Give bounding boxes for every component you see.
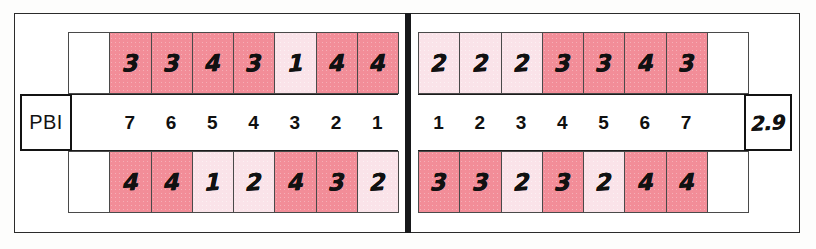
left-top-cell[interactable]: 4 xyxy=(192,32,234,94)
left-bottom-end-cap xyxy=(68,151,110,213)
pbi-label-box: PBI xyxy=(20,94,72,151)
left-bottom-cell[interactable]: 2 xyxy=(233,151,275,213)
left-top-mark: 3 xyxy=(246,51,262,75)
right-top-cell[interactable]: 2 xyxy=(501,32,543,94)
right-top-cell[interactable]: 3 xyxy=(542,32,584,94)
right-bottom-cell[interactable]: 3 xyxy=(418,151,460,213)
right-scale-cell[interactable]: 6 xyxy=(624,95,665,150)
left-scale-cell[interactable]: 4 xyxy=(233,95,274,150)
left-top-mark: 1 xyxy=(287,51,303,75)
left-scale-number: 5 xyxy=(207,112,218,134)
right-scale-number: 1 xyxy=(433,112,444,134)
right-scale-cell[interactable]: 7 xyxy=(666,95,707,150)
left-top-mark: 3 xyxy=(164,51,180,75)
left-top-mark: 4 xyxy=(329,51,345,75)
right-bottom-mark: 2 xyxy=(514,170,530,194)
right-scale-number: 4 xyxy=(557,112,568,134)
right-top-mark: 3 xyxy=(679,51,695,75)
right-top-rating-row: 2223343 xyxy=(418,32,748,94)
right-scale-number: 5 xyxy=(598,112,609,134)
right-bottom-mark: 2 xyxy=(596,170,612,194)
right-bottom-cell[interactable]: 3 xyxy=(459,151,501,213)
left-scale-cell[interactable]: 6 xyxy=(151,95,192,150)
right-scale-number-row: 1234567 xyxy=(418,94,748,151)
right-scale-number: 2 xyxy=(475,112,486,134)
pbi-label-text: PBI xyxy=(29,111,62,134)
left-scale-cell[interactable]: 5 xyxy=(192,95,233,150)
right-top-mark: 3 xyxy=(596,51,612,75)
left-top-mark: 3 xyxy=(122,51,138,75)
right-scale-number: 3 xyxy=(516,112,527,134)
pbi-score-box: 2.9 xyxy=(744,94,792,151)
right-scale-cell[interactable]: 4 xyxy=(542,95,583,150)
left-scale-cell[interactable]: 2 xyxy=(316,95,357,150)
left-top-cell[interactable]: 3 xyxy=(151,32,193,94)
left-bottom-mark: 2 xyxy=(246,170,262,194)
left-bottom-cell[interactable]: 3 xyxy=(316,151,358,213)
left-top-cell[interactable]: 4 xyxy=(357,32,399,94)
left-scale-number-row: 7654321 xyxy=(68,94,398,151)
right-top-cell[interactable]: 3 xyxy=(583,32,625,94)
right-bottom-rating-row: 3323244 xyxy=(418,151,748,213)
left-top-cell[interactable]: 4 xyxy=(316,32,358,94)
right-top-mark: 4 xyxy=(637,51,653,75)
right-bottom-cell[interactable]: 3 xyxy=(542,151,584,213)
left-scale-cell[interactable]: 7 xyxy=(109,95,150,150)
right-scale-cell[interactable]: 5 xyxy=(583,95,624,150)
left-scale-cell[interactable]: 1 xyxy=(357,95,398,150)
right-scale-pad xyxy=(707,95,748,150)
centre-divider xyxy=(405,13,411,233)
left-top-cell[interactable]: 3 xyxy=(109,32,151,94)
left-bottom-cell[interactable]: 4 xyxy=(109,151,151,213)
left-top-end-cap xyxy=(68,32,110,94)
left-scale-number: 3 xyxy=(290,112,301,134)
right-top-cell[interactable]: 2 xyxy=(418,32,460,94)
left-top-rating-row: 3343144 xyxy=(68,32,398,94)
scale-block-left: 3343144 7654321 4412432 xyxy=(68,32,398,217)
right-bottom-cell[interactable]: 4 xyxy=(666,151,708,213)
right-top-mark: 3 xyxy=(555,51,571,75)
right-scale-cell[interactable]: 3 xyxy=(501,95,542,150)
right-top-mark: 2 xyxy=(514,51,530,75)
right-top-cell[interactable]: 2 xyxy=(459,32,501,94)
right-bottom-mark: 3 xyxy=(472,170,488,194)
right-scale-cell[interactable]: 1 xyxy=(418,95,459,150)
left-scale-number: 6 xyxy=(166,112,177,134)
left-bottom-cell[interactable]: 4 xyxy=(151,151,193,213)
left-top-mark: 4 xyxy=(205,51,221,75)
right-bottom-mark: 3 xyxy=(555,170,571,194)
left-scale-number: 2 xyxy=(331,112,342,134)
left-bottom-cell[interactable]: 1 xyxy=(192,151,234,213)
right-top-cell[interactable]: 4 xyxy=(624,32,666,94)
left-bottom-rating-row: 4412432 xyxy=(68,151,398,213)
left-bottom-mark: 3 xyxy=(329,170,345,194)
right-bottom-mark: 3 xyxy=(431,170,447,194)
right-scale-cell[interactable]: 2 xyxy=(459,95,500,150)
left-bottom-mark: 1 xyxy=(205,170,221,194)
right-bottom-cell[interactable]: 2 xyxy=(501,151,543,213)
left-top-cell[interactable]: 1 xyxy=(274,32,316,94)
right-scale-number: 6 xyxy=(640,112,651,134)
left-bottom-mark: 2 xyxy=(370,170,386,194)
right-scale-number: 7 xyxy=(681,112,692,134)
right-bottom-end-cap xyxy=(707,151,749,213)
left-scale-number: 1 xyxy=(372,112,383,134)
right-top-mark: 2 xyxy=(431,51,447,75)
left-scale-number: 7 xyxy=(125,112,136,134)
right-bottom-mark: 4 xyxy=(679,170,695,194)
left-scale-cell[interactable]: 3 xyxy=(274,95,315,150)
right-top-end-cap xyxy=(707,32,749,94)
left-bottom-mark: 4 xyxy=(164,170,180,194)
left-bottom-cell[interactable]: 2 xyxy=(357,151,399,213)
pbi-score-value: 2.9 xyxy=(751,110,785,136)
scale-block-right: 2223343 1234567 3323244 xyxy=(418,32,748,217)
left-bottom-mark: 4 xyxy=(287,170,303,194)
right-top-cell[interactable]: 3 xyxy=(666,32,708,94)
right-bottom-cell[interactable]: 2 xyxy=(583,151,625,213)
left-bottom-mark: 4 xyxy=(122,170,138,194)
left-scale-number: 4 xyxy=(248,112,259,134)
right-bottom-cell[interactable]: 4 xyxy=(624,151,666,213)
scanned-page-background: 3343144 7654321 4412432 2223343 1234567 … xyxy=(0,0,816,249)
left-top-cell[interactable]: 3 xyxy=(233,32,275,94)
left-bottom-cell[interactable]: 4 xyxy=(274,151,316,213)
